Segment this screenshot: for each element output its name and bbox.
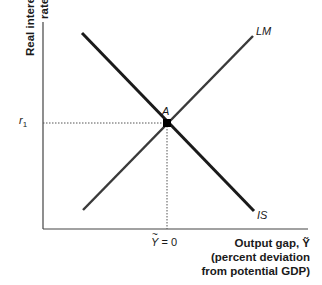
x-axis-label-line2: (percent deviation [150, 250, 310, 264]
y-axis-label: Real interest rate, r [23, 0, 57, 127]
x-axis-label-line3: from potential GDP) [150, 264, 310, 278]
point-a-label: A [162, 105, 169, 117]
y-axis-label-line2: rate, r [37, 0, 51, 127]
lm-curve-label: LM [256, 25, 271, 37]
x-axis-label-line1: Output gap, Ỹ [150, 236, 310, 250]
y-axis-label-line1: Real interest [23, 0, 37, 127]
r-subscript: 1 [23, 120, 27, 129]
x-axis-label: Output gap, Ỹ (percent deviation from po… [150, 236, 310, 278]
equilibrium-point-a [163, 119, 171, 127]
r1-tick-label: r1 [19, 114, 27, 129]
is-curve-label: IS [257, 209, 267, 221]
